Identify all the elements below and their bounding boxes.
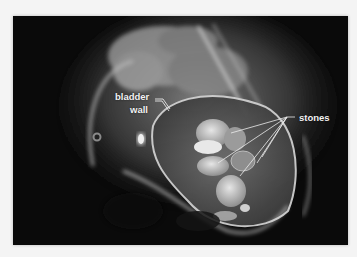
bladder-wall-label-line1: bladder bbox=[115, 91, 149, 102]
pelvis-radiograph bbox=[13, 16, 348, 245]
xray-image: bladder wall stones bbox=[13, 16, 348, 245]
bladder-wall-label-line2: wall bbox=[130, 104, 148, 115]
stones-label: stones bbox=[299, 112, 330, 123]
